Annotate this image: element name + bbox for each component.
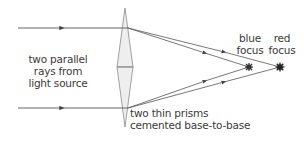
red-focus-label-line-1: red bbox=[262, 32, 302, 44]
source-label-line-3: light source bbox=[18, 77, 98, 89]
red-focus-label: red focus bbox=[262, 32, 302, 56]
top-ray-to-blue bbox=[128, 28, 205, 53]
source-label: two parallel rays from light source bbox=[18, 53, 98, 89]
upper-prism bbox=[117, 8, 133, 67]
blue-focus-icon bbox=[245, 63, 253, 71]
prism-label: two thin prisms cemented base-to-base bbox=[130, 107, 250, 131]
red-focus-icon bbox=[276, 63, 285, 72]
bottom-ray-to-red bbox=[128, 82, 224, 108]
bottom-ray-to-blue bbox=[128, 81, 205, 108]
prism-label-line-1: two thin prisms bbox=[130, 107, 250, 119]
prism-label-line-2: cemented base-to-base bbox=[130, 119, 250, 131]
source-label-line-2: rays from bbox=[18, 65, 98, 77]
top-ray-to-red bbox=[128, 28, 224, 52]
source-label-line-1: two parallel bbox=[18, 53, 98, 65]
red-focus-label-line-2: focus bbox=[262, 44, 302, 56]
